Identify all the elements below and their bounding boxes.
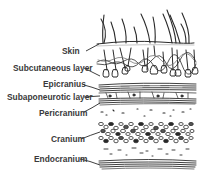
epicranius-band bbox=[99, 83, 196, 91]
subcutaneous-band bbox=[97, 52, 196, 74]
scalp-illustration bbox=[0, 0, 213, 179]
subaponeurotic-band bbox=[99, 92, 196, 99]
label-epicranius: Epicranius bbox=[43, 80, 86, 88]
pericranium-band bbox=[99, 100, 196, 105]
outer-table-flecks bbox=[101, 109, 191, 116]
label-cranium: Cranium bbox=[51, 135, 85, 143]
endocranium-band bbox=[99, 160, 196, 170]
label-subcutaneous-layer: Subcutaneous layer bbox=[13, 64, 93, 72]
label-subaponeurotic-layer: Subaponeurotic layer bbox=[7, 93, 93, 101]
hair-strands bbox=[101, 10, 189, 43]
label-skin: Skin bbox=[62, 47, 80, 55]
leader-epicranius bbox=[84, 85, 100, 90]
label-endocranium: Endocranium bbox=[34, 155, 88, 163]
cranium-diploe bbox=[99, 122, 194, 142]
label-pericranium: Pericranium bbox=[39, 109, 87, 117]
hair-follicles bbox=[103, 66, 198, 77]
scalp-layers-diagram: Skin Subcutaneous layer Epicranius Subap… bbox=[0, 0, 213, 179]
leader-skin bbox=[86, 44, 99, 51]
inner-table-flecks bbox=[104, 148, 189, 156]
